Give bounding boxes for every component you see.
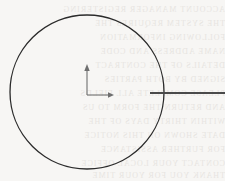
axes-group: [84, 64, 114, 98]
figure-canvas: ACCOUNT MANAGER REGISTERINGTHE SYSTEM RE…: [0, 0, 225, 181]
diagram-svg: [0, 0, 225, 181]
y-axis-arrowhead-icon: [84, 64, 89, 71]
x-axis-arrowhead-icon: [108, 92, 114, 97]
